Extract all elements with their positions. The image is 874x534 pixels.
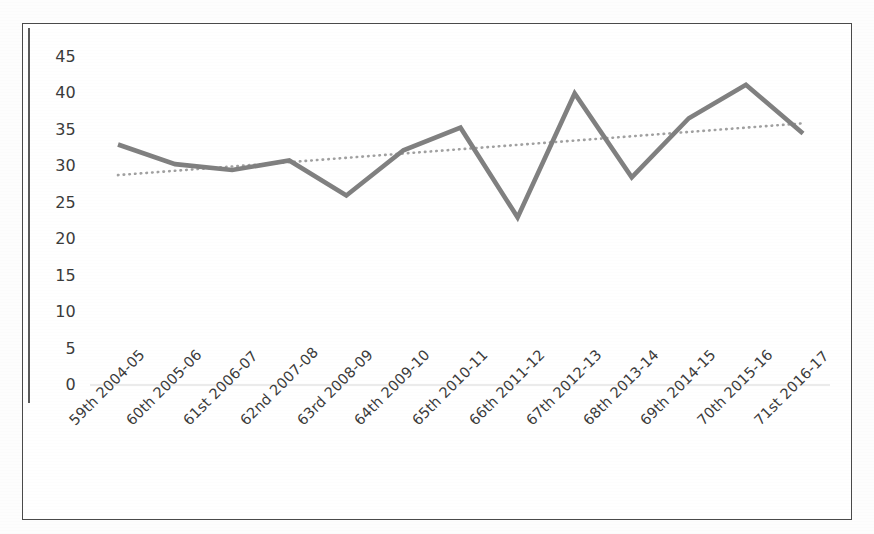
x-axis-tick-labels: 59th 2004-0560th 2005-0661st 2006-0762nd…: [0, 0, 874, 534]
chart-page: 45 40 35 30 25 20 15 10 5 0 59th 2004-05…: [0, 0, 874, 534]
